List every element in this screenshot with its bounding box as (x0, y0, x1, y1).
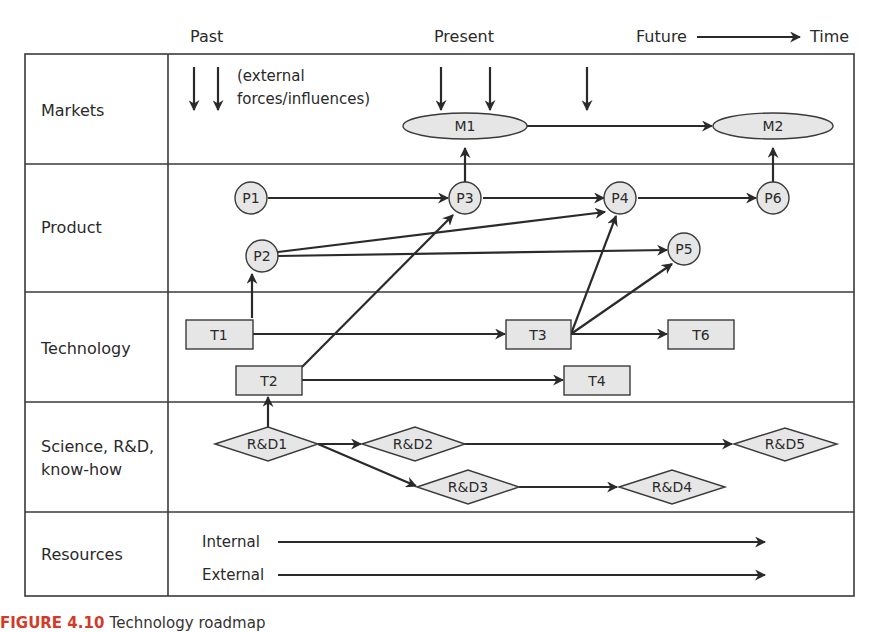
node-p4: P4 (604, 182, 636, 214)
node-t3: T3 (506, 320, 571, 349)
node-rd1: R&D1 (215, 427, 318, 461)
svg-text:R&D2: R&D2 (393, 436, 433, 452)
svg-text:T6: T6 (691, 327, 710, 343)
node-t1: T1 (186, 320, 253, 349)
timeline-past-label: Past (190, 27, 223, 46)
row-label-technology: Technology (40, 339, 131, 358)
svg-text:R&D5: R&D5 (765, 436, 805, 452)
node-p1: P1 (235, 182, 267, 214)
svg-text:R&D3: R&D3 (448, 479, 488, 495)
svg-text:P5: P5 (675, 241, 692, 257)
node-p6: P6 (757, 182, 789, 214)
timeline-future-label: Future (636, 27, 687, 46)
node-m2: M2 (713, 113, 833, 139)
row-label-science-line1: Science, R&D, (41, 437, 154, 456)
svg-text:T4: T4 (587, 373, 606, 389)
svg-text:R&D1: R&D1 (247, 436, 287, 452)
svg-text:M1: M1 (455, 118, 476, 134)
node-p3: P3 (449, 182, 481, 214)
node-rd2: R&D2 (362, 427, 465, 461)
node-p2: P2 (246, 240, 278, 272)
svg-text:P4: P4 (611, 190, 628, 206)
node-t6: T6 (668, 320, 734, 349)
node-rd4: R&D4 (619, 470, 725, 504)
svg-text:R&D4: R&D4 (652, 479, 692, 495)
row-label-markets: Markets (41, 101, 104, 120)
svg-text:T3: T3 (528, 327, 546, 343)
svg-text:T2: T2 (259, 373, 277, 389)
node-m1: M1 (403, 113, 527, 139)
svg-text:M2: M2 (763, 118, 784, 134)
figure-caption: FIGURE 4.10 Technology roadmap (0, 614, 265, 632)
timeline-time-label: Time (809, 27, 849, 46)
external-note-line2: forces/influences) (237, 90, 370, 108)
figure-number: FIGURE 4.10 (0, 614, 104, 632)
timeline-present-label: Present (434, 27, 494, 46)
node-t4: T4 (564, 366, 630, 395)
node-rd5: R&D5 (734, 428, 837, 461)
row-label-science-line2: know-how (41, 460, 122, 479)
resources-external-label: External (202, 566, 264, 584)
figure-caption-text: Technology roadmap (110, 614, 266, 632)
svg-text:P6: P6 (764, 190, 781, 206)
resources-internal-label: Internal (202, 533, 260, 551)
row-label-product: Product (41, 218, 102, 237)
node-t2: T2 (236, 366, 302, 395)
node-rd3: R&D3 (417, 470, 519, 504)
node-p5: P5 (668, 233, 700, 265)
external-note-line1: (external (237, 67, 305, 85)
svg-text:P2: P2 (253, 248, 270, 264)
svg-text:T1: T1 (209, 327, 227, 343)
svg-text:P3: P3 (456, 190, 473, 206)
edges (252, 126, 773, 575)
svg-text:P1: P1 (242, 190, 259, 206)
row-label-resources: Resources (41, 545, 123, 564)
